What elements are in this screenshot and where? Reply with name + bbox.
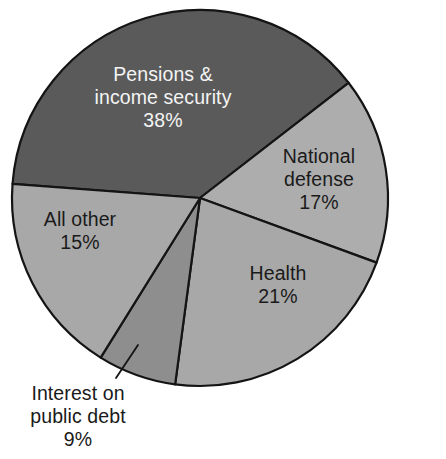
pie-chart-canvas [0, 0, 446, 459]
pie-slice-group [12, 10, 388, 386]
pie-chart: Pensions & income security 38% National … [0, 0, 446, 459]
